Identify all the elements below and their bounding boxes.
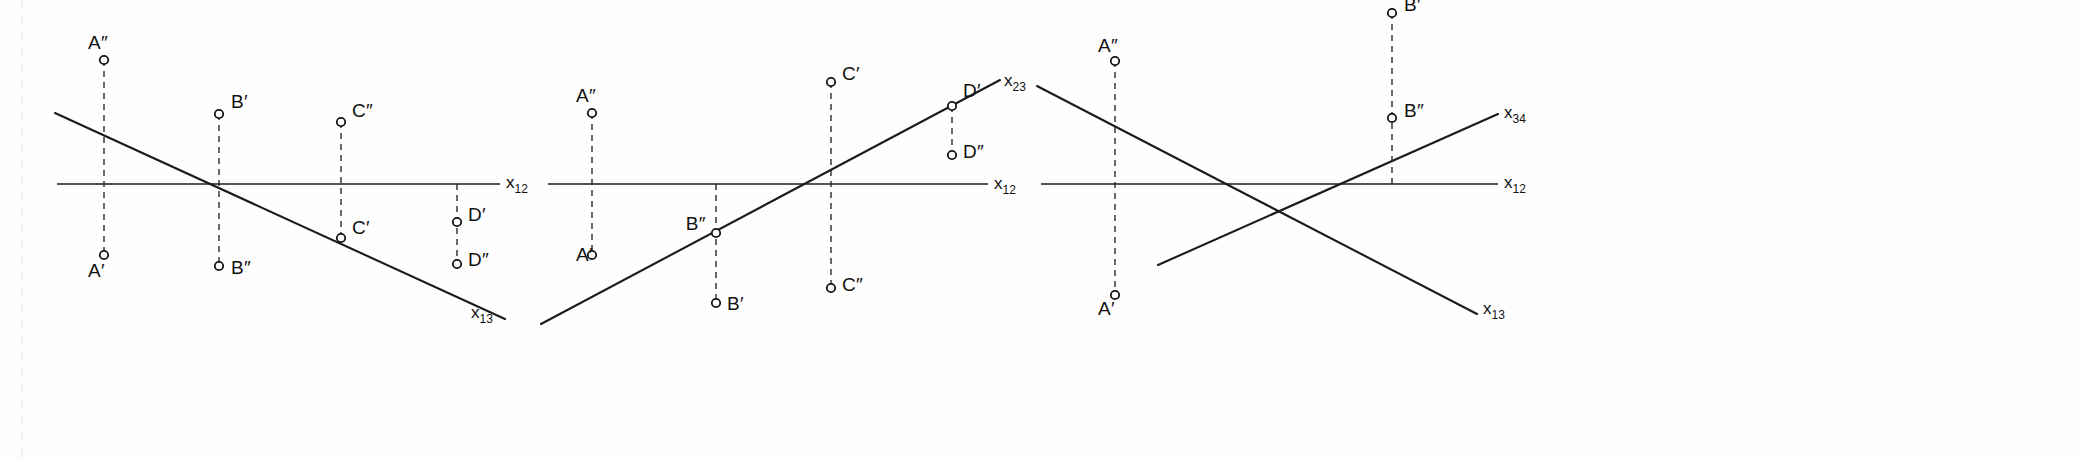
- panel-2: A″ A′ B″ B′ C′ C″ D′ D″ x12 x23: [541, 63, 1026, 324]
- point-label-d1: D′: [963, 80, 981, 101]
- point-label-a1: A′: [1098, 298, 1115, 319]
- point-marker-d1: [948, 102, 956, 110]
- panel-1-trace-line: [55, 113, 505, 319]
- panel-3: A″ A′ B′ B″ x12 x34 x13: [1037, 0, 1526, 322]
- point-marker-b2: [215, 262, 223, 270]
- point-label-c1: C′: [352, 217, 370, 238]
- point-marker-a2: [100, 56, 108, 64]
- point-marker-c2: [827, 284, 835, 292]
- point-label-b1: B′: [727, 293, 744, 314]
- point-marker-c1: [827, 78, 835, 86]
- point-label-d1: D′: [468, 204, 486, 225]
- point-label-c2: C″: [842, 274, 863, 295]
- point-marker-a2: [1111, 57, 1119, 65]
- point-label-a1: A′: [88, 260, 105, 281]
- panel-1-trace-axis-label: x13: [471, 303, 493, 326]
- point-label-a2: A″: [576, 85, 596, 106]
- panel-1: A″ A′ B′ B″ C″ C′ D′ D″ x12 x13: [55, 32, 528, 326]
- point-marker-d1: [453, 218, 461, 226]
- point-marker-a1: [100, 251, 108, 259]
- point-label-d2: D″: [963, 141, 984, 162]
- point-label-d2: D″: [468, 249, 489, 270]
- point-label-b1: B′: [1404, 0, 1421, 15]
- point-label-c1: C′: [842, 63, 860, 84]
- point-marker-b1: [215, 110, 223, 118]
- point-label-a1: A′: [576, 244, 593, 265]
- point-label-b2: B″: [686, 213, 706, 234]
- point-marker-b2: [1388, 114, 1396, 122]
- point-marker-a2: [588, 109, 596, 117]
- point-marker-b1: [712, 299, 720, 307]
- panel-2-trace-axis-label: x23: [1004, 71, 1026, 94]
- panel-3-ground-axis-label: x12: [1504, 173, 1526, 196]
- panel-1-ground-axis-label: x12: [506, 173, 528, 196]
- panel-2-trace-line: [541, 80, 1000, 324]
- panel-2-ground-axis-label: x12: [994, 174, 1016, 197]
- panel-3-ascending-trace-line: [1158, 114, 1498, 265]
- point-label-b1: B′: [231, 91, 248, 112]
- point-label-a2: A″: [88, 32, 108, 53]
- point-marker-d2: [453, 260, 461, 268]
- point-label-c2: C″: [352, 100, 373, 121]
- point-marker-c2: [337, 118, 345, 126]
- point-label-a2: A″: [1098, 35, 1118, 56]
- panel-3-lower-trace-axis-label: x13: [1483, 299, 1505, 322]
- point-marker-b2: [712, 229, 720, 237]
- point-marker-c1: [337, 234, 345, 242]
- point-label-b2: B″: [231, 257, 251, 278]
- panel-3-upper-trace-axis-label: x34: [1504, 103, 1526, 126]
- figure-canvas: A″ A′ B′ B″ C″ C′ D′ D″ x12 x13: [0, 0, 2080, 460]
- projection-figure-svg: A″ A′ B′ B″ C″ C′ D′ D″ x12 x13: [0, 0, 2080, 460]
- point-label-b2: B″: [1404, 100, 1424, 121]
- point-marker-b1: [1388, 9, 1396, 17]
- point-marker-d2: [948, 151, 956, 159]
